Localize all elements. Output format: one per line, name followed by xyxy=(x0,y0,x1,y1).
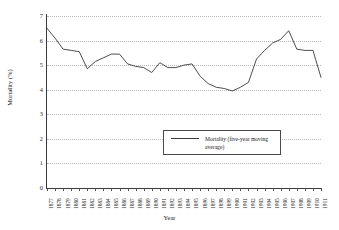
x-axis-tick-mark xyxy=(144,188,145,191)
x-axis-tick-mark xyxy=(168,188,169,191)
legend: Mortality (five-year moving average) xyxy=(163,130,281,155)
x-axis-tick-label: 1898 xyxy=(219,198,224,209)
y-axis-tick-label: 6 xyxy=(33,38,43,44)
y-axis-tick-label: 2 xyxy=(33,136,43,142)
x-axis-tick-label: 1881 xyxy=(82,198,87,209)
x-axis-tick-label: 1880 xyxy=(74,198,79,209)
x-axis-tick-label: 1886 xyxy=(122,198,127,209)
x-axis-tick-label: 1907 xyxy=(291,198,296,209)
x-axis-tick-label: 1878 xyxy=(57,198,62,209)
x-axis-tick-label: 1890 xyxy=(154,198,159,209)
x-axis-tick-mark xyxy=(184,188,185,191)
x-axis-tick-mark xyxy=(55,188,56,191)
x-axis-tick-labels: 1877187818791880188118821883188418851886… xyxy=(47,192,321,212)
x-axis-tick-label: 1910 xyxy=(315,198,320,209)
x-axis-tick-label: 1885 xyxy=(114,198,119,209)
x-axis-tick-label: 1891 xyxy=(162,198,167,209)
x-axis-tick-label: 1896 xyxy=(203,198,208,209)
y-axis-title: Mortality (%) xyxy=(6,53,13,123)
y-axis-tick-label: 4 xyxy=(33,87,43,93)
legend-line-swatch xyxy=(171,138,199,139)
x-axis-tick-mark xyxy=(216,188,217,191)
x-axis-tick-label: 1904 xyxy=(267,198,272,209)
x-axis-tick-label: 1888 xyxy=(138,198,143,209)
x-axis-tick-mark xyxy=(273,188,274,191)
legend-label: Mortality (five-year moving average) xyxy=(205,135,279,151)
x-axis-tick-mark xyxy=(200,188,201,191)
x-axis-tick-mark xyxy=(313,188,314,191)
y-axis-line xyxy=(46,14,47,189)
x-axis-tick-label: 1893 xyxy=(178,198,183,209)
x-axis-tick-mark xyxy=(95,188,96,191)
x-axis-tick-mark xyxy=(297,188,298,191)
mortality-line-chart: Mortality (%) 01234567 18771878187918801… xyxy=(0,0,339,230)
x-axis-tick-mark xyxy=(240,188,241,191)
x-axis-tick-mark xyxy=(103,188,104,191)
x-axis-tick-label: 1901 xyxy=(243,198,248,209)
x-axis-tick-label: 1877 xyxy=(49,198,54,209)
x-axis-tick-label: 1899 xyxy=(227,198,232,209)
x-axis-tick-label: 1900 xyxy=(235,198,240,209)
x-axis-tick-mark xyxy=(265,188,266,191)
y-axis-tick-label: 5 xyxy=(33,62,43,68)
x-axis-tick-mark xyxy=(71,188,72,191)
y-axis-tick-labels: 01234567 xyxy=(33,0,43,230)
y-axis-tick-label: 3 xyxy=(33,111,43,117)
x-axis-tick-label: 1887 xyxy=(130,198,135,209)
x-axis-tick-label: 1894 xyxy=(186,198,191,209)
x-axis-tick-label: 1892 xyxy=(170,198,175,209)
x-axis-tick-label: 1895 xyxy=(194,198,199,209)
x-axis-title: Year xyxy=(0,214,339,221)
x-axis-tick-mark xyxy=(208,188,209,191)
y-axis-tick-label: 7 xyxy=(33,13,43,19)
x-axis-tick-label: 1897 xyxy=(211,198,216,209)
x-axis-tick-mark xyxy=(111,188,112,191)
x-axis-tick-label: 1902 xyxy=(251,198,256,209)
x-axis-tick-mark xyxy=(224,188,225,191)
x-axis-tick-mark xyxy=(289,188,290,191)
x-axis-tick-mark xyxy=(281,188,282,191)
plot-area xyxy=(47,16,321,188)
x-axis-tick-label: 1903 xyxy=(259,198,264,209)
x-axis-tick-label: 1884 xyxy=(106,198,111,209)
x-axis-tick-mark xyxy=(87,188,88,191)
x-axis-tick-mark xyxy=(305,188,306,191)
x-axis-tick-label: 1905 xyxy=(275,198,280,209)
x-axis-tick-label: 1879 xyxy=(66,198,71,209)
x-axis-tick-mark xyxy=(120,188,121,191)
x-axis-tick-mark xyxy=(128,188,129,191)
y-axis-tick-label: 0 xyxy=(33,185,43,191)
x-axis-tick-label: 1909 xyxy=(307,198,312,209)
x-axis-tick-mark xyxy=(160,188,161,191)
x-axis-tick-mark xyxy=(136,188,137,191)
x-axis-tick-mark xyxy=(176,188,177,191)
x-axis-tick-label: 1882 xyxy=(90,198,95,209)
x-axis-tick-label: 1889 xyxy=(146,198,151,209)
x-axis-tick-label: 1911 xyxy=(323,198,328,209)
x-axis-tick-mark xyxy=(152,188,153,191)
x-axis-tick-mark xyxy=(232,188,233,191)
x-axis-tick-label: 1906 xyxy=(283,198,288,209)
x-axis-tick-mark xyxy=(192,188,193,191)
y-axis-tick-label: 1 xyxy=(33,160,43,166)
x-axis-tick-mark xyxy=(79,188,80,191)
series-line-mortality xyxy=(47,16,321,188)
x-axis-tick-mark xyxy=(63,188,64,191)
x-axis-tick-mark xyxy=(47,188,48,191)
x-axis-tick-label: 1883 xyxy=(98,198,103,209)
x-axis-tick-mark xyxy=(248,188,249,191)
x-axis-tick-mark xyxy=(321,188,322,191)
x-axis-tick-mark xyxy=(257,188,258,191)
x-axis-tick-label: 1908 xyxy=(299,198,304,209)
